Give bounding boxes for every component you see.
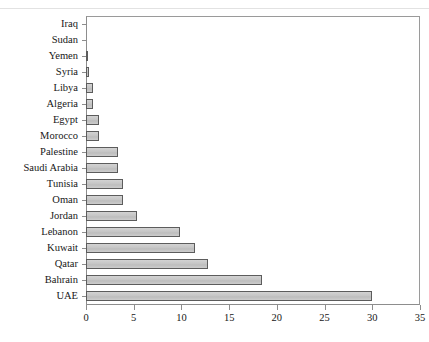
x-axis-tick-label: 30 xyxy=(367,311,378,325)
bar xyxy=(86,83,93,93)
x-axis-tick-label: 25 xyxy=(319,311,330,325)
bar-row xyxy=(86,128,420,144)
bar-row xyxy=(86,48,420,64)
bar xyxy=(86,275,262,285)
bar-row xyxy=(86,192,420,208)
x-axis-tick-mark xyxy=(420,305,421,310)
y-axis-tick-label: Palestine xyxy=(0,144,82,160)
x-axis-tick-mark xyxy=(86,305,87,310)
bar-row xyxy=(86,64,420,80)
bar xyxy=(86,227,180,237)
x-axis-tick-label: 15 xyxy=(224,311,235,325)
bar xyxy=(86,51,88,61)
bar xyxy=(86,67,89,77)
bar xyxy=(86,99,93,109)
x-axis-tick-label: 0 xyxy=(83,311,88,325)
bar-row xyxy=(86,288,420,304)
x-axis-tick-mark xyxy=(134,305,135,310)
bar xyxy=(86,243,195,253)
y-axis-tick-label: UAE xyxy=(0,288,82,304)
y-axis-labels: IraqSudanYemenSyriaLibyaAlgeriaEgyptMoro… xyxy=(0,16,82,304)
x-axis-tick-mark xyxy=(181,305,182,310)
y-axis-tick-label: Iraq xyxy=(0,16,82,32)
y-axis-tick-label: Egypt xyxy=(0,112,82,128)
x-axis-tick-label: 35 xyxy=(415,311,426,325)
chart-title xyxy=(0,0,429,7)
y-axis-tick-label: Kuwait xyxy=(0,240,82,256)
x-axis-tick-label: 10 xyxy=(176,311,187,325)
bar xyxy=(86,131,99,141)
x-axis-tick-mark xyxy=(277,305,278,310)
y-axis-tick-label: Libya xyxy=(0,80,82,96)
bar-row xyxy=(86,32,420,48)
y-axis-tick-label: Oman xyxy=(0,192,82,208)
x-axis-tick-mark xyxy=(325,305,326,310)
bar xyxy=(86,179,123,189)
x-axis-tick-mark xyxy=(372,305,373,310)
bar-row xyxy=(86,176,420,192)
y-axis-tick-label: Lebanon xyxy=(0,224,82,240)
x-axis-tick-label: 20 xyxy=(272,311,283,325)
y-axis-tick-label: Saudi Arabia xyxy=(0,160,82,176)
y-axis-tick-label: Tunisia xyxy=(0,176,82,192)
bar-row xyxy=(86,80,420,96)
x-axis-tick-label: 5 xyxy=(131,311,136,325)
y-axis-tick-label: Sudan xyxy=(0,32,82,48)
bar-row xyxy=(86,96,420,112)
bar-row xyxy=(86,144,420,160)
bar-row xyxy=(86,240,420,256)
x-axis-labels: 05101520253035 xyxy=(86,311,420,327)
bar xyxy=(86,291,372,301)
bar-row xyxy=(86,224,420,240)
y-axis-tick-label: Syria xyxy=(0,64,82,80)
y-axis-tick-label: Algeria xyxy=(0,96,82,112)
bar xyxy=(86,163,118,173)
bar-row xyxy=(86,272,420,288)
y-axis-tick-label: Qatar xyxy=(0,256,82,272)
bar-row xyxy=(86,112,420,128)
y-axis-tick-mark xyxy=(82,24,86,25)
bar-row xyxy=(86,208,420,224)
bar xyxy=(86,259,208,269)
bar xyxy=(86,195,123,205)
y-axis-tick-label: Bahrain xyxy=(0,272,82,288)
y-axis-tick-label: Jordan xyxy=(0,208,82,224)
bar-row xyxy=(86,16,420,32)
bar xyxy=(86,147,118,157)
x-axis-tick-mark xyxy=(229,305,230,310)
title-divider xyxy=(0,8,429,9)
bar-row xyxy=(86,160,420,176)
y-axis-tick-label: Morocco xyxy=(0,128,82,144)
y-axis-tick-label: Yemen xyxy=(0,48,82,64)
bar-series xyxy=(86,16,420,304)
bar xyxy=(86,211,137,221)
y-axis-tick-mark xyxy=(82,40,86,41)
bar-chart: IraqSudanYemenSyriaLibyaAlgeriaEgyptMoro… xyxy=(0,0,429,342)
bar-row xyxy=(86,256,420,272)
bar xyxy=(86,115,99,125)
